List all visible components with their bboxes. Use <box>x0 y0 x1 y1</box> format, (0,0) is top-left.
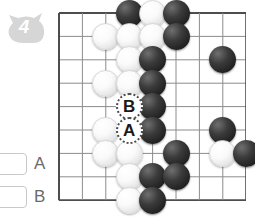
problem-number-text: 4 <box>3 9 47 45</box>
answer-label-b: B <box>34 186 54 208</box>
problem-panel: 4 A B BA <box>0 0 255 223</box>
stone-layer: BA <box>58 12 246 201</box>
black-stone <box>209 46 236 73</box>
black-stone <box>139 117 166 144</box>
problem-number-badge: 4 <box>3 9 47 45</box>
answer-checkbox-a[interactable] <box>0 153 27 175</box>
go-board[interactable]: BA <box>58 12 246 201</box>
black-stone <box>233 140 255 167</box>
answer-checkbox-b[interactable] <box>0 186 27 208</box>
answer-label-a: A <box>34 153 54 175</box>
black-stone <box>163 163 190 190</box>
move-marker-a[interactable]: A <box>116 117 143 144</box>
black-stone <box>139 187 166 214</box>
black-stone <box>163 23 190 50</box>
